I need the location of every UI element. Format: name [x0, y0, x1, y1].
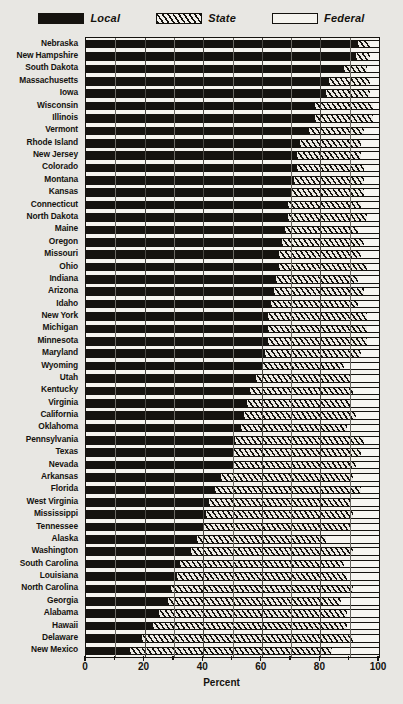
bar-segment-local	[86, 176, 294, 185]
category-label: Georgia	[47, 595, 78, 605]
table-row	[86, 399, 379, 408]
bar-segment-local	[86, 486, 215, 495]
category-label: Missouri	[44, 248, 78, 258]
bar-segment-local	[86, 622, 153, 631]
table-row	[86, 448, 379, 457]
x-axis-tick-label: 100	[370, 661, 387, 672]
category-label: Minnesota	[37, 335, 78, 345]
bar-segment-federal	[370, 52, 379, 61]
table-row	[86, 287, 379, 296]
bar-segment-local	[86, 387, 250, 396]
category-label: Alabama	[44, 607, 78, 617]
bar-segment-local	[86, 362, 262, 371]
bar-segment-state	[142, 634, 353, 643]
bar-segment-federal	[373, 102, 379, 111]
bar-segment-state	[297, 151, 361, 160]
table-row	[86, 226, 379, 235]
bar-segment-local	[86, 609, 159, 618]
bar-segment-federal	[358, 275, 379, 284]
plot-area	[85, 37, 380, 658]
category-label: Wyoming	[41, 360, 78, 370]
category-label: Indiana	[49, 273, 78, 283]
category-label: Connecticut	[31, 199, 78, 209]
bar-segment-state	[291, 188, 364, 197]
bar-segment-local	[86, 77, 329, 86]
bar-segment-federal	[347, 424, 379, 433]
bar-segment-local	[86, 374, 256, 383]
category-label: Maryland	[42, 347, 78, 357]
bar-segment-local	[86, 114, 315, 123]
category-label: Colorado	[42, 161, 78, 171]
bar-segment-state	[241, 424, 346, 433]
bar-segment-federal	[367, 312, 379, 321]
bar-segment-local	[86, 164, 297, 173]
bar-segment-federal	[361, 250, 379, 259]
category-label: Oklahoma	[38, 421, 78, 431]
bar-segment-federal	[361, 349, 379, 358]
bar-segment-local	[86, 349, 265, 358]
table-row	[86, 127, 379, 136]
bar-segment-state	[153, 622, 346, 631]
bar-segment-local	[86, 263, 279, 272]
bar-segment-state	[168, 597, 341, 606]
table-row	[86, 609, 379, 618]
bar-segment-state	[268, 337, 368, 346]
category-label: Maine	[55, 223, 78, 233]
x-axis-tick-label: 60	[255, 661, 266, 672]
bar-segment-federal	[373, 114, 379, 123]
bar-segment-state	[329, 77, 370, 86]
x-axis-tick-label: 20	[138, 661, 149, 672]
table-row	[86, 213, 379, 222]
table-row	[86, 139, 379, 148]
bar-segment-federal	[358, 300, 379, 309]
category-label: Ohio	[59, 261, 78, 271]
table-row	[86, 263, 379, 272]
table-row	[86, 461, 379, 470]
table-row	[86, 201, 379, 210]
table-row	[86, 486, 379, 495]
bar-segment-federal	[350, 374, 379, 383]
table-row	[86, 362, 379, 371]
bar-segment-local	[86, 399, 247, 408]
bar-segment-local	[86, 238, 282, 247]
table-row	[86, 411, 379, 420]
table-row	[86, 498, 379, 507]
category-axis-labels: NebraskaNew HampshireSouth DakotaMassach…	[0, 37, 82, 656]
hatched-swatch-icon	[156, 13, 202, 24]
category-label: Montana	[44, 174, 78, 184]
bar-segment-federal	[353, 510, 379, 519]
bar-segment-federal	[344, 362, 379, 371]
category-label: New Hampshire	[16, 50, 78, 60]
bar-segment-federal	[370, 40, 379, 49]
bar-segment-federal	[332, 647, 379, 656]
bar-segment-state	[288, 213, 367, 222]
bar-segment-federal	[370, 89, 379, 98]
bar-segment-local	[86, 300, 271, 309]
legend-label-federal: Federal	[324, 12, 365, 24]
bar-segment-local	[86, 325, 268, 334]
bar-segment-state	[256, 374, 350, 383]
table-row	[86, 164, 379, 173]
x-axis-tick-labels: 020406080100	[0, 661, 403, 675]
bar-segment-state	[274, 287, 365, 296]
legend-label-local: Local	[90, 12, 120, 24]
category-label: Pennsylvania	[26, 434, 78, 444]
bar-segment-local	[86, 102, 315, 111]
category-label: West Virginia	[27, 496, 78, 506]
bar-segment-state	[300, 139, 362, 148]
bar-segment-federal	[356, 461, 379, 470]
category-label: New Mexico	[31, 644, 78, 654]
bar-segment-federal	[353, 585, 379, 594]
bar-segment-state	[244, 411, 355, 420]
bar-segment-federal	[361, 201, 379, 210]
bar-segment-federal	[370, 77, 379, 86]
table-row	[86, 634, 379, 643]
category-label: Kansas	[49, 186, 78, 196]
table-row	[86, 52, 379, 61]
bar-segment-federal	[367, 65, 379, 74]
bar-segment-federal	[364, 176, 379, 185]
bar-segment-state	[282, 238, 364, 247]
bar-segment-local	[86, 250, 279, 259]
bar-segment-state	[209, 498, 350, 507]
bar-segment-federal	[364, 436, 379, 445]
